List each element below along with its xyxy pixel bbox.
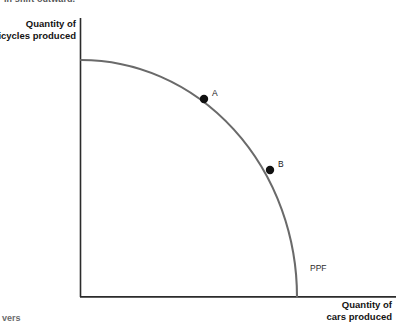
ppf-figure: in shift outward. Quantity of bicycles p… [0,0,396,326]
point-a-label: A [212,88,218,98]
point-a-marker [200,95,208,103]
x-axis-title: Quantity of cars produced [327,299,392,322]
ppf-curve [81,60,297,297]
clipped-bottom-caption: vers [2,313,21,323]
x-axis-title-line1: Quantity of [327,299,392,311]
x-axis-title-line2: cars produced [327,311,392,323]
ppf-plot-area: A B PPF [0,0,396,326]
point-b-label: B [278,159,284,169]
ppf-curve-label: PPF [310,263,327,273]
point-b-marker [266,166,274,174]
